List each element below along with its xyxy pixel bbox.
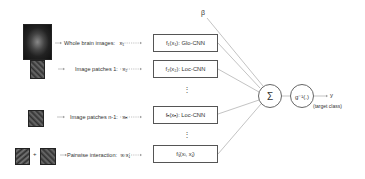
pairwise-box: fᵢⱼ(xᵢ, xⱼ) [153,145,218,163]
input-label-text: Whole brain images: [64,40,115,46]
loc-cnn-box-n: fₙ(xₙ): Loc-CNN [153,106,218,124]
link-function-node: g⁻¹(.) [290,84,314,108]
input-label-patch-1: Image patches 1: x₂ [75,66,127,72]
pairwise-image-j [40,148,56,165]
plus-sign: + [33,151,37,157]
input-variable: xₙ [122,114,127,120]
ellipsis-1: ⋮ [183,85,191,94]
pairwise-image-i [15,148,30,165]
whole-brain-image [23,24,52,60]
image-patch-1 [30,60,45,79]
input-variable: x₂ [122,66,127,72]
loc-cnn-box-1: f₂(x₂): Loc-CNN [153,60,218,78]
input-label-text: Image patches 1: [75,66,118,72]
input-label-patch-n: Image patches n-1: xₙ [70,114,127,120]
input-label-text: Pairwise interaction: [67,152,117,158]
ellipsis-2: ⋮ [183,130,191,139]
input-label-whole-brain: Whole brain images: x₁ [64,40,124,46]
output-caption: (target class) [313,103,342,109]
input-variable: xᵢ xⱼ [121,152,130,158]
input-label-text: Image patches n-1: [70,114,118,120]
input-label-pairwise: Pairwise interaction: xᵢ xⱼ [67,152,130,158]
output-variable: y [330,92,333,98]
glo-cnn-box: f₁(x₁): Glo-CNN [153,34,218,52]
image-patch-n [28,110,44,127]
beta-label: β [201,9,205,16]
input-variable: x₁ [120,40,125,46]
sum-node: Σ [258,84,282,108]
